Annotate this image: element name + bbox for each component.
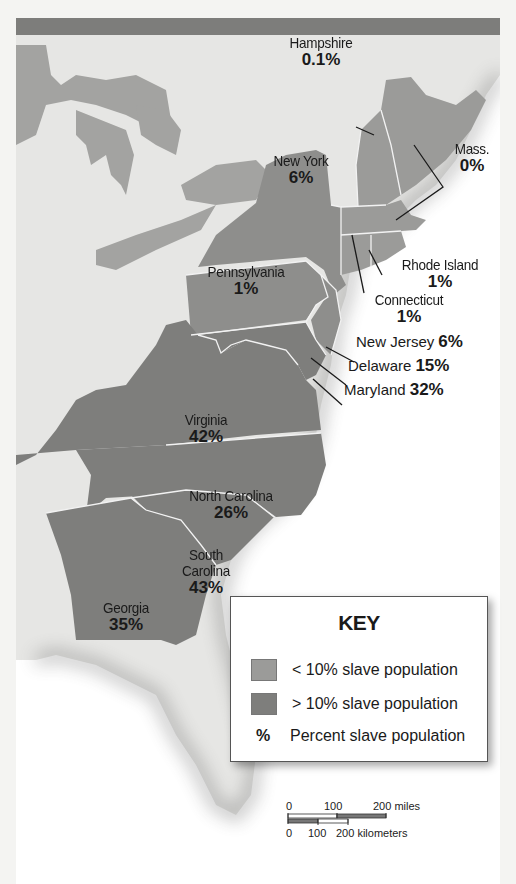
label-south-carolina: South Carolina 43% (166, 547, 246, 596)
label-new-jersey: New Jersey6% (356, 332, 463, 352)
title-bar (16, 18, 500, 35)
label-north-carolina: North Carolina 26% (166, 488, 296, 522)
key-item-percent: % Percent slave population (251, 727, 465, 745)
label-rhode-island: Rhode Island 1% (380, 257, 500, 291)
dark-swatch-icon (251, 693, 277, 715)
label-connecticut: Connecticut 1% (359, 292, 459, 326)
lake-erie (96, 205, 216, 270)
label-virginia: Virginia 42% (161, 412, 251, 446)
scale-bar: 0 100 200 miles 0 100 200 kilometers (286, 800, 456, 840)
lake-huron (136, 105, 181, 155)
label-georgia: Georgia 35% (86, 600, 166, 634)
key-item-low: < 10% slave population (251, 659, 458, 681)
key-title: KEY (231, 611, 487, 635)
label-pennsylvania: Pennsylvania 1% (191, 264, 301, 298)
scale-bar-graphic (286, 813, 406, 827)
lake-michigan (76, 110, 134, 195)
label-maryland: Maryland32% (344, 380, 444, 400)
label-new-hampshire: New Hampshire 0.1% (266, 35, 376, 68)
label-delaware: Delaware15% (348, 356, 449, 376)
key-item-high: > 10% slave population (251, 693, 458, 715)
label-mass: Mass. 0% (444, 141, 500, 175)
label-new-york: New York 6% (256, 153, 346, 187)
percent-symbol-icon: % (251, 727, 275, 745)
map-key: KEY < 10% slave population > 10% slave p… (230, 596, 488, 762)
light-swatch-icon (251, 659, 277, 681)
